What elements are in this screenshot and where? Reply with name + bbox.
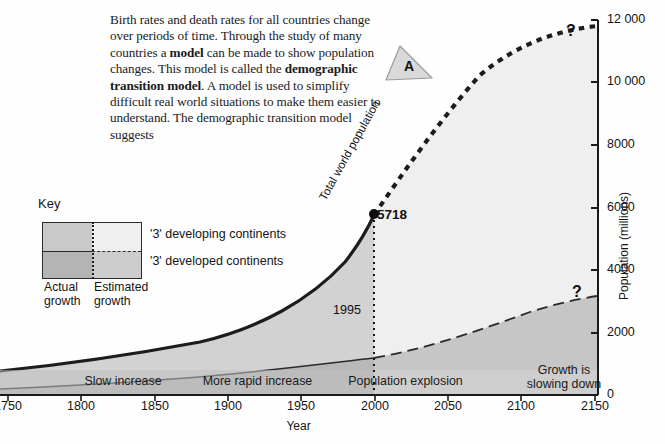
key-solid-divider xyxy=(43,251,92,252)
y-tick-label-10000: 10 000 xyxy=(607,74,645,88)
question-mark-upper: ? xyxy=(566,22,576,40)
x-tick-label-1750: 1750 xyxy=(0,399,28,413)
x-tick-label-2100: 2100 xyxy=(501,399,541,413)
x-tick-label-1800: 1800 xyxy=(61,399,101,413)
key-sublabel-actual: Actual growth xyxy=(44,281,92,308)
band-label-population-explosion: Population explosion xyxy=(333,375,478,389)
key-label-developed: '3' developed continents xyxy=(150,254,283,268)
datapoint-value-label: 5718 xyxy=(377,207,407,222)
x-tick-label-2050: 2050 xyxy=(428,399,468,413)
marker-label-a: A xyxy=(404,58,414,74)
y-tick-label-2000: 2000 xyxy=(607,325,635,339)
x-tick-label-1850: 1850 xyxy=(135,399,175,413)
question-mark-lower: ? xyxy=(572,283,582,301)
key-swatch-estimated-developing xyxy=(92,223,141,251)
band-label-growth-slowing: Growth is slowing down xyxy=(514,364,614,391)
intro-seg-1-bold: model xyxy=(170,45,204,60)
key-swatch-estimated-developed xyxy=(92,251,141,279)
band-label-more-rapid-increase: More rapid increase xyxy=(185,375,330,389)
key-sublabel-estimated: Estimated growth xyxy=(94,281,154,308)
key-title: Key xyxy=(38,196,60,211)
x-tick-label-1900: 1900 xyxy=(208,399,248,413)
key-dashed-divider xyxy=(92,251,141,252)
x-tick-label-1950: 1950 xyxy=(281,399,321,413)
key-swatch-grid xyxy=(42,222,142,279)
intro-paragraph: Birth rates and death rates for all coun… xyxy=(110,12,382,143)
key-dotted-divider xyxy=(92,222,94,279)
y-tick-label-8000: 8000 xyxy=(607,137,635,151)
key-swatch-actual-developed xyxy=(43,251,92,279)
key-swatch-actual-developing xyxy=(43,223,92,251)
y-tick-label-12000: 12 000 xyxy=(607,12,645,26)
x-tick-label-2150: 2150 xyxy=(574,399,616,413)
x-axis-title: Year xyxy=(0,419,597,433)
y-axis-title: Population (millions) xyxy=(617,192,631,300)
key-label-developing: '3' developing continents xyxy=(150,227,286,241)
datapoint-year-label: 1995 xyxy=(333,303,361,317)
x-tick-label-2000: 2000 xyxy=(355,399,395,413)
band-label-slow-increase: Slow increase xyxy=(63,375,183,389)
